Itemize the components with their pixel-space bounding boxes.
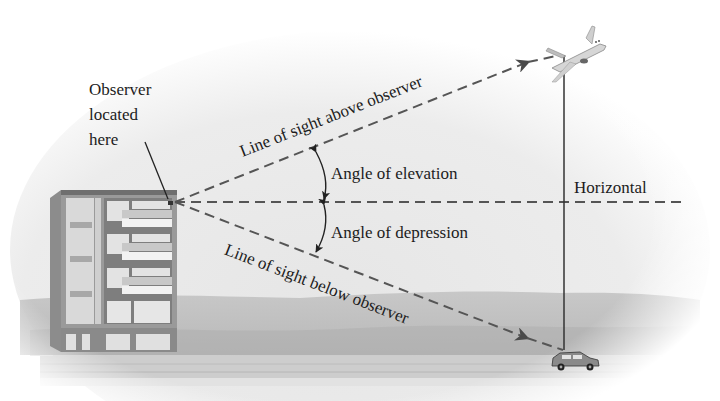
observer-label-line1: Observer	[89, 80, 151, 99]
observer-label-line3: here	[89, 130, 118, 149]
angle-depression-label: Angle of depression	[331, 223, 468, 242]
diagram-graphics	[0, 0, 720, 401]
horizontal-label: Horizontal	[574, 178, 647, 197]
angle-elevation-label: Angle of elevation	[331, 164, 458, 183]
diagram-canvas: Observer located here Line of sight abov…	[0, 0, 720, 401]
observer-label-line2: located	[89, 105, 138, 124]
building-icon	[50, 190, 177, 352]
